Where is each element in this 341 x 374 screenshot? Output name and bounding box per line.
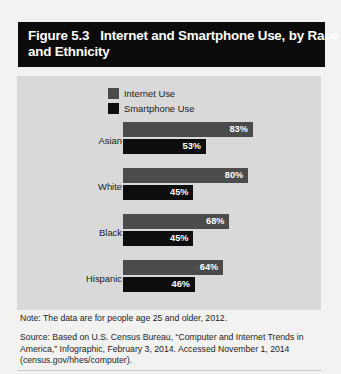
bar-value-label: 83% <box>230 122 248 137</box>
bar-asian-smartphone: 53% <box>123 139 206 154</box>
figure-title-line-1: Figure 5.3Internet and Smartphone Use, b… <box>28 28 315 44</box>
bar-value-label: 46% <box>172 277 190 292</box>
bar-white-internet: 80% <box>123 168 248 183</box>
bar-value-label: 64% <box>200 260 218 275</box>
bar-wrapper: 45% <box>123 185 319 200</box>
figure-title-line-2: and Ethnicity <box>28 44 315 60</box>
chart-group: White80%45% <box>17 168 321 207</box>
bar-wrapper: 46% <box>123 277 319 292</box>
figure-title-part-1: Internet and Smartphone Use, by Race <box>100 28 338 43</box>
bar-wrapper: 53% <box>123 139 319 154</box>
bar-wrapper: 45% <box>123 231 319 246</box>
bar-black-smartphone: 45% <box>123 231 193 246</box>
bar-value-label: 80% <box>225 168 243 183</box>
bar-hispanic-internet: 64% <box>123 260 223 275</box>
legend-label-internet-use: Internet Use <box>124 88 175 99</box>
chart-group: Asian83%53% <box>17 122 321 161</box>
bar-value-label: 45% <box>170 185 188 200</box>
chart-group: Hispanic64%46% <box>17 260 321 299</box>
chart-group: Black68%45% <box>17 214 321 253</box>
legend-swatch-internet-icon <box>108 88 119 99</box>
chart-panel: Internet Use Smartphone Use Asian83%53%W… <box>17 76 321 310</box>
chart-plot-area: Asian83%53%White80%45%Black68%45%Hispani… <box>17 122 321 304</box>
category-label-white: White <box>17 180 122 193</box>
bar-value-label: 68% <box>206 214 224 229</box>
bar-wrapper: 80% <box>123 168 319 183</box>
bar-value-label: 53% <box>183 139 201 154</box>
bar-asian-internet: 83% <box>123 122 253 137</box>
figure-title-bar: Figure 5.3Internet and Smartphone Use, b… <box>18 22 325 67</box>
category-label-hispanic: Hispanic <box>17 272 122 285</box>
note-line: Note: The data are for people age 25 and… <box>20 313 320 324</box>
legend-swatch-smartphone-icon <box>108 103 119 114</box>
bar-wrapper: 68% <box>123 214 319 229</box>
figure-notes: Note: The data are for people age 25 and… <box>20 313 320 367</box>
category-label-asian: Asian <box>17 134 122 147</box>
bar-hispanic-smartphone: 46% <box>123 277 195 292</box>
bar-wrapper: 83% <box>123 122 319 137</box>
bar-value-label: 45% <box>170 231 188 246</box>
category-label-black: Black <box>17 226 122 239</box>
legend-item-internet-use: Internet Use <box>108 87 194 100</box>
bar-wrapper: 64% <box>123 260 319 275</box>
bar-white-smartphone: 45% <box>123 185 193 200</box>
bottom-divider <box>17 370 321 371</box>
figure-container: Figure 5.3Internet and Smartphone Use, b… <box>0 0 341 374</box>
legend-label-smartphone-use: Smartphone Use <box>124 103 194 114</box>
legend-item-smartphone-use: Smartphone Use <box>108 102 194 115</box>
bar-black-internet: 68% <box>123 214 229 229</box>
figure-number: Figure 5.3 <box>28 28 89 43</box>
source-line: Source: Based on U.S. Census Bureau, “Co… <box>20 332 320 366</box>
chart-legend: Internet Use Smartphone Use <box>108 87 194 117</box>
